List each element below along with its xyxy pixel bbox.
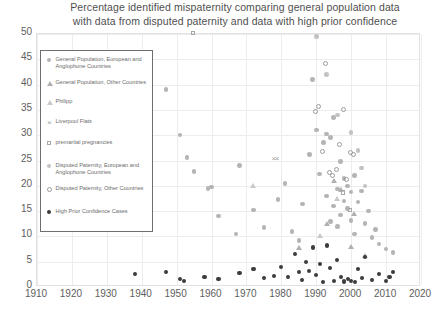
data-point-filled-circle xyxy=(47,58,51,62)
legend-item[interactable]: Disputed Paternity, Other Countries xyxy=(46,185,149,192)
chart-legend: General Population, European and Angloph… xyxy=(40,50,153,232)
data-point-dark-circle xyxy=(293,252,297,256)
chart-title-line-1: Percentage identified mispaternity compa… xyxy=(55,1,415,15)
legend-item-label: General Population, Other Countries xyxy=(56,79,150,86)
data-point-filled-triangle xyxy=(296,245,302,250)
data-point-dark-circle xyxy=(272,274,276,278)
data-point-filled-circle xyxy=(331,115,336,120)
legend-item-label: General Population, European and Angloph… xyxy=(56,56,150,71)
data-point-filled-circle xyxy=(359,189,364,194)
data-point-filled-circle xyxy=(324,72,329,77)
data-point-open-triangle xyxy=(47,100,53,105)
gridline-vertical xyxy=(246,34,247,285)
gridline-vertical xyxy=(386,34,387,285)
legend-marker-icon xyxy=(46,162,53,169)
data-point-dark-circle xyxy=(182,279,186,283)
data-point-dark-circle xyxy=(342,279,346,283)
y-axis-tick-label: 50 xyxy=(2,26,32,37)
data-point-filled-circle xyxy=(164,87,169,92)
y-axis-tick-label: 15 xyxy=(2,203,32,214)
legend-item-label: Disputed Paternity, Other Countries xyxy=(56,185,150,192)
y-axis-tick-label: 5 xyxy=(2,254,32,265)
data-point-open-square xyxy=(47,141,51,145)
data-point-filled-circle xyxy=(307,152,312,157)
data-point-open-circle xyxy=(330,173,335,178)
data-point-filled-circle xyxy=(328,219,333,224)
y-axis-tick-label: 30 xyxy=(2,127,32,138)
data-point-filled-circle xyxy=(192,169,197,174)
data-point-dark-circle xyxy=(300,278,304,282)
data-point-filled-circle xyxy=(310,77,315,82)
legend-item[interactable]: ×Liverpool Flats xyxy=(46,118,149,125)
y-axis-tick-label: 20 xyxy=(2,178,32,189)
data-point-dark-circle xyxy=(251,267,255,271)
legend-marker-icon xyxy=(46,208,53,215)
legend-marker-icon xyxy=(46,98,53,105)
data-point-filled-circle xyxy=(47,164,51,168)
data-point-dark-circle xyxy=(262,276,266,280)
legend-item[interactable]: Disputed Paternity, European and Angloph… xyxy=(46,162,149,177)
data-point-filled-circle xyxy=(335,187,340,192)
data-point-open-circle xyxy=(327,170,332,175)
data-point-dark-circle xyxy=(353,280,357,284)
legend-item[interactable]: premarital pregnancies xyxy=(46,139,149,146)
data-point-filled-circle xyxy=(342,199,347,204)
data-point-filled-circle xyxy=(290,229,295,234)
y-axis: 05101520253035404550 xyxy=(0,33,32,286)
data-point-filled-circle xyxy=(391,250,396,255)
data-point-open-circle xyxy=(320,149,325,154)
data-point-dark-circle xyxy=(325,243,329,247)
legend-marker-icon xyxy=(46,139,53,146)
data-point-dark-circle xyxy=(370,278,374,282)
data-point-filled-circle xyxy=(338,213,343,218)
legend-marker-icon xyxy=(46,56,53,63)
data-point-filled-circle xyxy=(335,113,340,118)
legend-item-label: High Prior Confidence Cases xyxy=(56,208,150,215)
gridline-vertical xyxy=(316,34,317,285)
data-point-filled-triangle xyxy=(324,221,330,226)
data-point-filled-triangle xyxy=(331,178,337,183)
data-point-filled-triangle xyxy=(362,253,368,258)
data-point-open-square xyxy=(341,190,345,194)
legend-item-label: Philipp xyxy=(56,98,150,105)
data-point-dark-circle xyxy=(47,210,51,214)
data-point-dark-circle xyxy=(346,277,350,281)
data-point-filled-circle xyxy=(335,224,340,229)
data-point-open-circle xyxy=(323,61,328,66)
data-point-x-marker: × xyxy=(275,156,280,162)
gridline-vertical xyxy=(212,34,213,285)
legend-item[interactable]: General Population, European and Angloph… xyxy=(46,56,149,71)
legend-marker-icon xyxy=(46,185,53,192)
data-point-filled-circle xyxy=(377,242,382,247)
legend-item[interactable]: General Population, Other Countries xyxy=(46,79,149,86)
data-point-dark-circle xyxy=(321,280,325,284)
legend-item[interactable]: Philipp xyxy=(46,98,149,105)
data-point-dark-circle xyxy=(377,272,381,276)
data-point-dark-circle xyxy=(307,269,311,273)
data-point-filled-circle xyxy=(276,197,281,202)
data-point-dark-circle xyxy=(202,275,206,279)
data-point-open-circle xyxy=(344,177,349,182)
data-point-dark-circle xyxy=(216,277,220,281)
legend-item-label: Disputed Paternity, European and Angloph… xyxy=(56,162,150,177)
data-point-dark-circle xyxy=(133,272,137,276)
gridline-horizontal xyxy=(37,262,419,263)
data-point-filled-circle xyxy=(342,176,347,181)
data-point-dark-circle xyxy=(339,275,343,279)
data-point-x-marker: × xyxy=(271,156,276,162)
data-point-filled-circle xyxy=(363,221,368,226)
data-point-dark-circle xyxy=(237,271,241,275)
data-point-filled-circle xyxy=(237,163,242,168)
data-point-dark-circle xyxy=(178,277,182,281)
data-point-dark-circle xyxy=(356,267,360,271)
data-point-dark-circle xyxy=(332,279,336,283)
data-point-filled-circle xyxy=(331,204,336,209)
gridline-horizontal xyxy=(37,236,419,237)
data-point-filled-triangle xyxy=(47,81,53,86)
data-point-dark-circle xyxy=(164,270,168,274)
gridline-vertical xyxy=(421,34,422,285)
data-point-filled-circle xyxy=(300,202,305,207)
x-axis: 1910192019301940195019601970198019902000… xyxy=(36,288,420,308)
legend-item[interactable]: High Prior Confidence Cases xyxy=(46,208,149,215)
